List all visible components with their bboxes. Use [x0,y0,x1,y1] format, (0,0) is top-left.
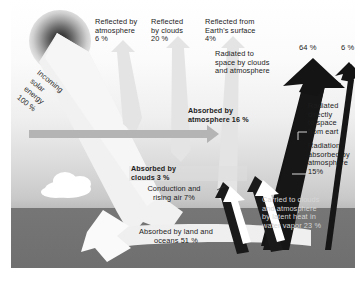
label-percent-6: 6 % [341,44,354,53]
label-radiated-directly-to-space: Radiated directly to space from eart [308,102,355,136]
label-conduction-rising-air: Conduction and rising air 7% [135,185,213,202]
diagram-canvas: Reflected by atmosphere 6 % Reflected by… [0,0,362,283]
label-reflected-by-atmosphere: Reflected by atmosphere 6 % [95,18,153,44]
label-absorbed-by-clouds: Absorbed by clouds 3 % [131,165,193,182]
label-latent-heat-water-vapor: Carried to clouds and atmosphere by late… [262,196,342,230]
surface-cloud [39,170,95,198]
label-absorbed-by-atmosphere: Absorbed by atmosphere 16 % [188,107,266,124]
label-reflected-from-surface: Reflected from Earth's surface 4% [205,18,275,44]
label-radiated-to-space-by-clouds: Radiated to space by clouds and atmosphe… [215,50,285,76]
label-radiation-absorbed-by-atmosphere: Radiation absorbed by atmosphere 15% [308,142,355,176]
label-reflected-by-clouds: Reflected by clouds 20 % [151,18,199,44]
label-absorbed-by-land-oceans: Absorbed by land and oceans 51 % [124,228,228,245]
energy-budget-diagram: Reflected by atmosphere 6 % Reflected by… [11,0,355,268]
label-percent-64: 64 % [299,44,317,53]
